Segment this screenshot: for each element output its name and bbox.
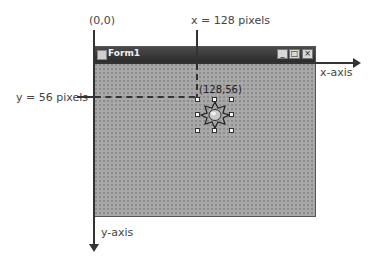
x-coordinate-label: x = 128 pixels: [191, 14, 270, 27]
x-axis-arrow-icon: [353, 58, 361, 68]
y-axis-label: y-axis: [101, 226, 133, 239]
origin-label: (0,0): [89, 14, 115, 27]
point-label: (128,56): [199, 84, 242, 95]
x-leader-line: [196, 30, 198, 62]
x-axis-label: x-axis: [320, 66, 353, 79]
x-guide-dashed: [196, 64, 198, 100]
selected-control[interactable]: [195, 97, 234, 133]
minimize-button[interactable]: _: [277, 49, 288, 59]
x-axis-line: [93, 62, 353, 64]
form-title: Form1: [108, 48, 140, 58]
y-leader-line: [77, 96, 93, 98]
form-icon: [97, 50, 107, 60]
y-axis-arrow-icon: [89, 244, 99, 252]
y-guide-dashed: [95, 96, 195, 98]
close-button[interactable]: ×: [302, 49, 313, 59]
title-bar[interactable]: Form1 _ □ ×: [94, 47, 315, 62]
maximize-button[interactable]: □: [289, 49, 300, 59]
star-gear-icon: [200, 101, 230, 129]
